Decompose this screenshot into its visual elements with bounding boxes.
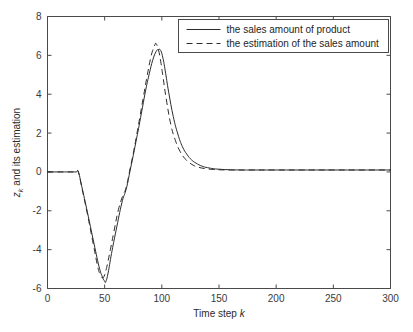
x-tick-label: 150: [211, 293, 228, 304]
chart-figure: 050100150200250300-6-4-202468 the sales …: [0, 0, 413, 332]
x-tick-label: 300: [382, 293, 399, 304]
axes: 050100150200250300-6-4-202468: [33, 11, 400, 304]
chart-legend: the sales amount of productthe estimatio…: [179, 20, 389, 53]
legend-label: the sales amount of product: [227, 24, 351, 35]
series-line-1: [48, 49, 391, 282]
x-tick-label: 100: [153, 293, 170, 304]
y-tick-label: -6: [33, 283, 42, 294]
plot-box: [48, 17, 391, 289]
y-tick-label: -4: [33, 244, 42, 255]
x-tick-label: 50: [99, 293, 111, 304]
y-tick-label: 4: [36, 89, 42, 100]
y-tick-label: 2: [36, 128, 42, 139]
series-line-2: [48, 43, 391, 278]
x-tick-label: 0: [45, 293, 51, 304]
y-tick-label: 6: [36, 50, 42, 61]
y-tick-label: 8: [36, 11, 42, 22]
axis-labels: Time step kzk and its estimation: [11, 108, 246, 319]
y-tick-label: 0: [36, 166, 42, 177]
y-tick-label: -2: [33, 205, 42, 216]
legend-label: the estimation of the sales amount: [227, 38, 380, 49]
x-tick-label: 250: [325, 293, 342, 304]
y-axis-title: zk and its estimation: [11, 108, 25, 198]
line-chart: 050100150200250300-6-4-202468 the sales …: [0, 0, 413, 332]
x-tick-label: 200: [268, 293, 285, 304]
data-series: [48, 43, 391, 282]
x-axis-title: Time step k: [193, 308, 245, 319]
